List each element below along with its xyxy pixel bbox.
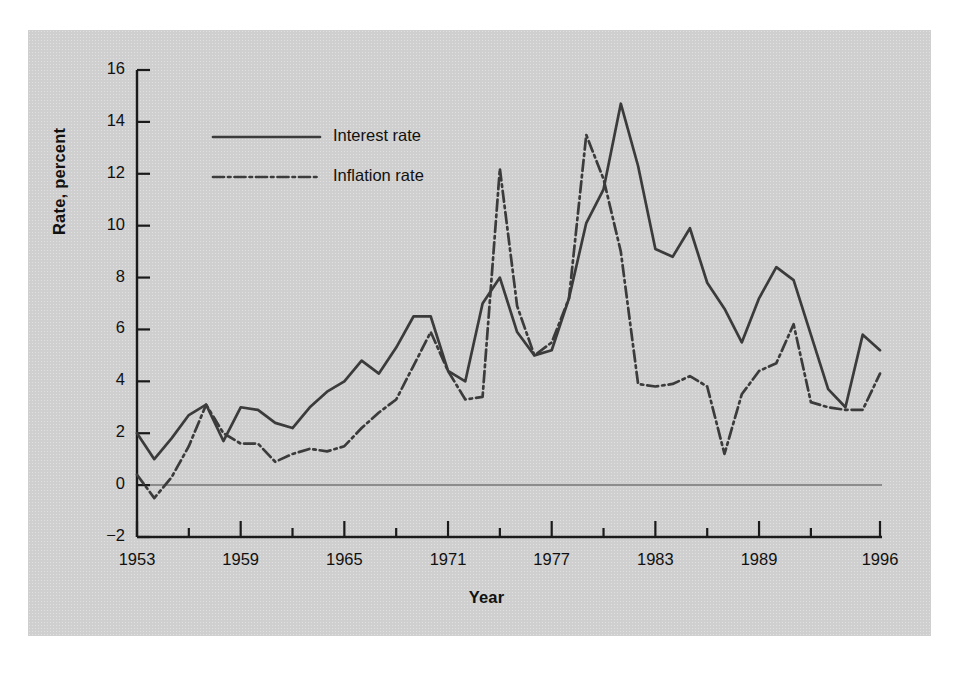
series-line-1 — [137, 104, 880, 459]
y-tick-label: 0 — [85, 474, 125, 493]
y-tick-label: 6 — [85, 318, 125, 337]
x-tick-label: 1983 — [620, 550, 690, 569]
x-tick-label: 1965 — [309, 550, 379, 569]
legend-label-2: Inflation rate — [333, 166, 424, 185]
y-tick-label: 2 — [85, 422, 125, 441]
y-axis-title: Rate, percent — [50, 128, 69, 235]
y-tick-label: 8 — [85, 267, 125, 286]
x-tick-label: 1977 — [517, 550, 587, 569]
y-tick-label: 16 — [85, 59, 125, 78]
x-tick-label: 1989 — [724, 550, 794, 569]
x-tick-label: 1996 — [845, 550, 915, 569]
x-tick-label: 1959 — [206, 550, 276, 569]
chart-plot-area — [0, 0, 973, 673]
y-tick-label: 14 — [85, 111, 125, 130]
x-tick-label: 1953 — [102, 550, 172, 569]
y-axis-title-wrapper: Rate, percent — [47, 35, 71, 235]
legend-label-1: Interest rate — [333, 126, 421, 145]
x-axis-title-wrapper: Year — [0, 588, 973, 607]
x-tick-label: 1971 — [413, 550, 483, 569]
y-tick-label: 10 — [85, 215, 125, 234]
chart-figure: Rate, percent Year −20246810121416 19531… — [0, 0, 973, 673]
y-tick-label: 4 — [85, 370, 125, 389]
x-axis-title: Year — [469, 588, 505, 606]
series-line-2 — [137, 135, 880, 498]
y-tick-label: −2 — [85, 526, 125, 545]
y-tick-label: 12 — [85, 163, 125, 182]
